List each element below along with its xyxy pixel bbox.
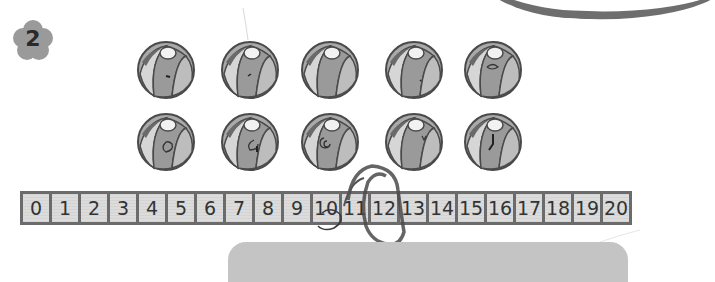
beach-ball-icon [220, 40, 280, 100]
number-cell[interactable]: 15 [458, 194, 484, 222]
beach-ball-icon [136, 112, 196, 172]
exercise-number-badge: 2 [12, 20, 54, 62]
number-cell[interactable]: 10 [313, 194, 339, 222]
beach-ball-icon [220, 112, 280, 172]
beach-ball-icon [136, 40, 196, 100]
answer-box [228, 242, 628, 282]
number-cell-circled[interactable]: 12 [371, 194, 397, 222]
number-cell[interactable]: 17 [516, 194, 542, 222]
number-cell[interactable]: 18 [545, 194, 571, 222]
number-cell[interactable]: 2 [81, 194, 107, 222]
beach-ball-icon [384, 40, 444, 100]
beach-ball-row-2 [136, 112, 536, 174]
beach-ball-icon [463, 112, 523, 172]
beach-ball-row-1 [136, 40, 536, 102]
page-header-swoosh [469, 0, 715, 27]
exercise-number: 2 [12, 26, 54, 51]
number-cell[interactable]: 4 [139, 194, 165, 222]
beach-ball-icon [300, 112, 360, 172]
number-cell[interactable]: 9 [284, 194, 310, 222]
number-line-0-to-20: 0 1 2 3 4 5 6 7 8 9 10 11 12 13 14 15 16… [20, 191, 632, 225]
number-cell[interactable]: 7 [226, 194, 252, 222]
number-cell[interactable]: 6 [197, 194, 223, 222]
number-cell[interactable]: 5 [168, 194, 194, 222]
number-cell[interactable]: 16 [487, 194, 513, 222]
beach-ball-icon [463, 40, 523, 100]
beach-ball-icon [384, 112, 444, 172]
number-cell[interactable]: 8 [255, 194, 281, 222]
number-cell[interactable]: 19 [574, 194, 600, 222]
number-cell[interactable]: 0 [23, 194, 49, 222]
number-cell[interactable]: 13 [400, 194, 426, 222]
number-cell[interactable]: 11 [342, 194, 368, 222]
number-cell[interactable]: 3 [110, 194, 136, 222]
number-cell[interactable]: 14 [429, 194, 455, 222]
number-cell[interactable]: 20 [603, 194, 629, 222]
number-cell[interactable]: 1 [52, 194, 78, 222]
beach-ball-icon [300, 40, 360, 100]
